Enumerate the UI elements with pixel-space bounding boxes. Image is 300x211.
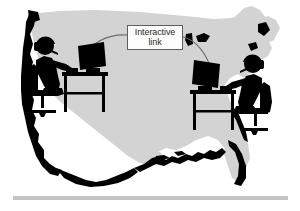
west-monitor — [78, 42, 106, 70]
east-desk-top — [190, 90, 236, 94]
east-monitor-stand — [198, 86, 212, 90]
west-chair-post — [41, 94, 44, 108]
illustration-canvas: Interactive link — [0, 0, 300, 211]
east-chair-post — [254, 112, 257, 126]
west-desk-stretcher — [64, 92, 105, 95]
west-person-legs — [42, 88, 64, 96]
east-headset-earcup — [258, 60, 264, 69]
east-person-legs — [234, 106, 256, 114]
bottom-divider-rule — [13, 196, 288, 200]
interactive-link-label: Interactive link — [127, 25, 183, 50]
interactive-link-label-line-2: link — [148, 38, 161, 47]
west-keyboard — [66, 68, 78, 72]
west-monitor-stand — [86, 68, 100, 72]
east-desk-stretcher — [193, 110, 234, 113]
west-desk-top — [62, 72, 108, 76]
west-headset-earcup — [34, 42, 40, 51]
east-keyboard — [220, 86, 232, 90]
southwest-shadow — [56, 168, 138, 187]
east-monitor — [192, 60, 220, 88]
